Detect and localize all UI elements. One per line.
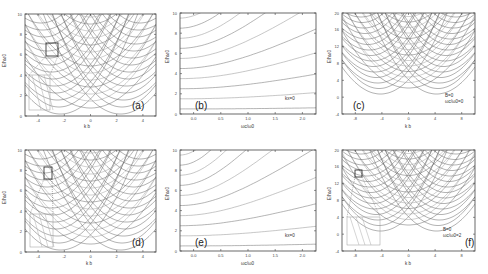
svg-text:10: 10 (173, 148, 178, 153)
svg-text:0: 0 (337, 95, 340, 100)
svg-text:2: 2 (175, 91, 178, 96)
svg-text:0: 0 (89, 118, 92, 123)
svg-text:8: 8 (461, 253, 464, 258)
ylabel-c: E/ħω0 (327, 50, 332, 63)
svg-text:6: 6 (20, 52, 23, 57)
plot-a: -4-20241086420 (0, 0, 165, 137)
svg-text:8: 8 (461, 116, 464, 121)
svg-text:-2: -2 (63, 254, 67, 259)
svg-text:2: 2 (175, 228, 178, 233)
svg-text:4: 4 (434, 116, 437, 121)
xlabel-d: k b (86, 261, 92, 266)
svg-text:2: 2 (116, 254, 119, 259)
svg-text:2.0: 2.0 (300, 116, 306, 121)
svg-text:10: 10 (18, 148, 23, 153)
svg-text:0: 0 (407, 253, 410, 258)
svg-text:4: 4 (20, 209, 23, 214)
tag-c: (c) (353, 100, 365, 111)
svg-text:12: 12 (335, 181, 340, 186)
svg-text:20: 20 (335, 11, 340, 16)
svg-text:0.0: 0.0 (191, 116, 197, 121)
svg-text:6: 6 (20, 188, 23, 193)
plot-b: 0.00.51.01.52.01086420 (165, 0, 325, 137)
svg-text:10: 10 (173, 11, 178, 16)
svg-text:0: 0 (337, 232, 340, 237)
ylabel-d: E/ħω0 (2, 191, 7, 204)
ylabel-b: E/ħω0 (165, 50, 170, 63)
annotation-f-2: ωc/ω0=2 (443, 233, 461, 239)
svg-text:4: 4 (175, 208, 178, 213)
tag-b: (b) (195, 100, 207, 111)
svg-text:2: 2 (20, 93, 23, 98)
svg-text:4: 4 (337, 215, 340, 220)
panel-a: -4-20241086420 E/ħω0 k b (a) (0, 0, 165, 137)
xlabel-b: ωc/ω0 (241, 124, 254, 129)
tag-a: (a) (132, 100, 144, 111)
svg-text:1.5: 1.5 (272, 116, 278, 121)
svg-text:1.0: 1.0 (245, 253, 251, 258)
svg-text:1.0: 1.0 (245, 116, 251, 121)
svg-text:20: 20 (335, 148, 340, 153)
svg-text:-4: -4 (36, 118, 40, 123)
plot-d: -4-20241086420 (0, 137, 165, 274)
svg-text:16: 16 (335, 164, 340, 169)
svg-text:-2: -2 (63, 118, 67, 123)
plot-f: -8-4048201612840-4 (325, 137, 488, 274)
svg-text:8: 8 (175, 31, 178, 36)
svg-text:-8: -8 (354, 116, 358, 121)
svg-text:12: 12 (335, 44, 340, 49)
tag-d: (d) (132, 237, 144, 248)
svg-text:2: 2 (20, 229, 23, 234)
svg-text:0: 0 (20, 250, 23, 255)
svg-text:0: 0 (20, 114, 23, 119)
panel-f: -8-4048201612840-4 E/ħω0 k b (f) B=0 ωc/… (325, 137, 488, 274)
svg-text:0.5: 0.5 (218, 253, 224, 258)
svg-text:-4: -4 (380, 116, 384, 121)
svg-text:10: 10 (18, 12, 23, 17)
svg-text:-4: -4 (36, 254, 40, 259)
panel-d: -4-20241086420 E/ħω0 k b (d) (0, 137, 165, 274)
svg-text:6: 6 (175, 188, 178, 193)
svg-text:1.5: 1.5 (272, 253, 278, 258)
svg-text:8: 8 (20, 32, 23, 37)
svg-text:8: 8 (20, 168, 23, 173)
panel-c: -8-4048201612840-4 E/ħω0 k b (c) B=0 ωc/… (325, 0, 488, 137)
svg-text:4: 4 (20, 73, 23, 78)
svg-text:8: 8 (175, 168, 178, 173)
svg-text:0: 0 (89, 254, 92, 259)
ylabel-a: E/ħω0 (2, 54, 7, 67)
svg-text:0.0: 0.0 (191, 253, 197, 258)
xlabel-a: k b (84, 124, 90, 129)
panel-b: 0.00.51.01.52.01086420 E/ħω0 ωc/ω0 (b) k… (165, 0, 325, 137)
annotation-b: kx=0 (285, 96, 295, 102)
tag-f: (f) (465, 237, 474, 248)
svg-text:4: 4 (175, 71, 178, 76)
svg-text:0: 0 (175, 249, 178, 254)
ylabel-f: E/ħω0 (327, 187, 332, 200)
xlabel-e: ωc/ω0 (241, 261, 254, 266)
xlabel-f: k b (405, 261, 411, 266)
svg-text:4: 4 (142, 118, 145, 123)
annotation-e: kx=0 (285, 233, 295, 239)
svg-text:6: 6 (175, 51, 178, 56)
plot-e: 0.00.51.01.52.01086420 (165, 137, 325, 274)
svg-text:4: 4 (337, 78, 340, 83)
svg-text:16: 16 (335, 27, 340, 32)
svg-text:0: 0 (407, 116, 410, 121)
svg-text:-4: -4 (380, 253, 384, 258)
svg-text:0: 0 (175, 112, 178, 117)
annotation-c-2: ωc/ω0=0 (445, 99, 463, 105)
svg-text:0.5: 0.5 (218, 116, 224, 121)
svg-text:-8: -8 (354, 253, 358, 258)
xlabel-c: k b (405, 124, 411, 129)
plot-c: -8-4048201612840-4 (325, 0, 488, 137)
svg-text:4: 4 (142, 254, 145, 259)
ylabel-e: E/ħω0 (165, 187, 170, 200)
svg-text:-4: -4 (335, 249, 339, 254)
tag-e: (e) (195, 237, 207, 248)
svg-text:8: 8 (337, 61, 340, 66)
panel-e: 0.00.51.01.52.01086420 E/ħω0 ωc/ω0 (e) k… (165, 137, 325, 274)
svg-text:2.0: 2.0 (300, 253, 306, 258)
svg-text:4: 4 (434, 253, 437, 258)
svg-text:8: 8 (337, 198, 340, 203)
